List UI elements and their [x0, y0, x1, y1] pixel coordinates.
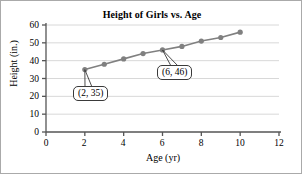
- annotation-callout-1: (2, 35): [73, 86, 108, 101]
- annotation-callout-2: (6, 46): [157, 65, 192, 80]
- plot-area: [1, 1, 302, 174]
- axis-ticks: [42, 25, 279, 136]
- chart-figure: Height of Girls vs. Age Height (in.) Age…: [0, 0, 302, 174]
